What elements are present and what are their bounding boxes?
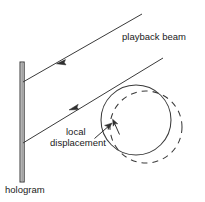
lower-beam-arrowhead-icon (69, 104, 79, 110)
playback-beam-label: playback beam (122, 31, 186, 42)
object-outline-displaced-dashed (110, 91, 182, 163)
upper-playback-beam-ray (23, 14, 142, 82)
hologram-label: hologram (5, 184, 45, 195)
displacement-gap-marker (113, 119, 120, 134)
hologram-diagram: playback beam hologram local displacemen… (0, 0, 205, 202)
displacement-label: displacement (50, 137, 106, 148)
lower-playback-beam-ray (23, 58, 163, 143)
lower-beam-line (23, 58, 163, 143)
hologram-plate (20, 62, 24, 182)
local-label: local (66, 126, 86, 137)
object-outline-solid (101, 85, 171, 155)
upper-beam-line (23, 14, 142, 82)
